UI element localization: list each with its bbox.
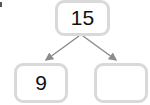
part-box-right-empty[interactable]: [94, 63, 148, 103]
arrow-to-right-part: [83, 36, 116, 60]
whole-box: 15: [55, 0, 110, 36]
part-left-value: 9: [35, 71, 47, 95]
arrow-to-left-part: [46, 36, 79, 60]
whole-value: 15: [71, 6, 94, 30]
part-box-left: 9: [14, 63, 68, 103]
